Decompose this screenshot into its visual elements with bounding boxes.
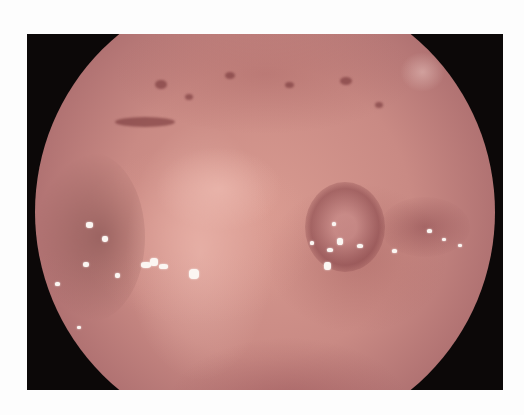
exudate-speck xyxy=(427,229,432,233)
exudate-speck xyxy=(337,238,343,245)
exudate-speck xyxy=(442,238,446,241)
endoscope-frame xyxy=(27,34,503,390)
endoscopic-field-of-view xyxy=(35,34,495,390)
exudate-speck xyxy=(458,244,462,247)
exudate-speck xyxy=(86,222,93,228)
pale-patch xyxy=(400,52,445,92)
far-right-lesion xyxy=(380,197,470,257)
exudate-speck xyxy=(327,248,333,252)
exudate-speck xyxy=(77,326,81,329)
exudate-speck xyxy=(310,241,314,245)
right-raised-lesion xyxy=(305,182,385,272)
exudate-speck xyxy=(102,236,108,242)
exudate-speck xyxy=(332,222,336,226)
hemorrhagic-spot xyxy=(155,80,167,89)
exudate-speck xyxy=(150,258,158,266)
hemorrhagic-spot xyxy=(340,77,352,85)
hemorrhagic-spot xyxy=(115,117,175,127)
pale-mucosa xyxy=(125,122,275,382)
hemorrhagic-spot xyxy=(375,102,383,108)
exudate-speck xyxy=(324,262,331,270)
hemorrhagic-spot xyxy=(185,94,193,100)
hemorrhagic-spot xyxy=(285,82,294,88)
exudate-speck xyxy=(83,262,89,267)
exudate-speck xyxy=(115,273,120,278)
exudate-speck xyxy=(159,264,168,269)
exudate-speck xyxy=(392,249,397,253)
hemorrhagic-spot xyxy=(225,72,235,79)
exudate-speck xyxy=(55,282,60,286)
exudate-speck xyxy=(189,269,199,279)
exudate-speck xyxy=(357,244,363,248)
